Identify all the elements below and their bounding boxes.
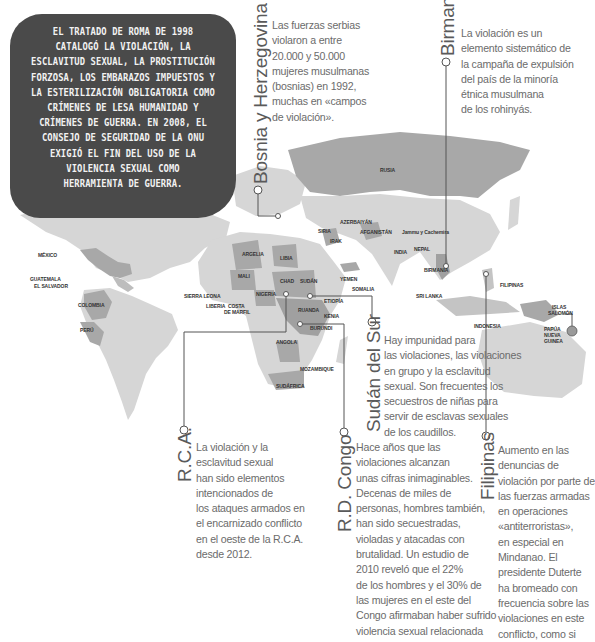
intro-line: exigió el fin del uso de la bbox=[26, 146, 219, 161]
intro-line: la esterilización obligatoria como bbox=[26, 85, 219, 100]
label-angola: ANGOLA bbox=[276, 339, 298, 345]
label-mexico: MÉXICO bbox=[38, 251, 57, 258]
label-burundi: BURUNDI bbox=[310, 325, 333, 331]
bosnia-note: Las fuerzas serbias violaron a entre 20.… bbox=[272, 18, 369, 125]
madagascar bbox=[336, 336, 348, 364]
intro-line: El Tratado de Roma de 1998 bbox=[26, 24, 219, 39]
label-peru: PERÚ bbox=[80, 327, 94, 333]
label-colombia: COLOMBIA bbox=[78, 302, 105, 308]
label-chad: CHAD bbox=[280, 278, 295, 284]
philippines bbox=[482, 268, 494, 292]
russia-region bbox=[288, 132, 530, 198]
intro-line: esclavitud sexual, la prostitución bbox=[26, 54, 219, 69]
label-siria: SIRIA bbox=[318, 228, 331, 234]
filipinas-note: Aumento en las denuncias de violación po… bbox=[498, 443, 595, 642]
japan bbox=[508, 196, 520, 230]
label-nepal: NEPAL bbox=[414, 246, 430, 252]
label-sudafrica: SUDÁFRICA bbox=[276, 383, 305, 389]
label-islas-salomon-2: SALOMÓN bbox=[548, 309, 573, 316]
intro-line: catalogó la violación, la bbox=[26, 39, 219, 54]
rca-note: La violación y la esclavitud sexual han … bbox=[196, 440, 305, 562]
label-libia: LIBIA bbox=[280, 255, 293, 261]
label-sudan: SUDÁN bbox=[300, 278, 318, 284]
label-guatemala: GUATEMALA bbox=[30, 276, 61, 282]
label-etiopia: ETIOPÍA bbox=[324, 297, 344, 304]
label-rusia: RUSIA bbox=[380, 167, 396, 173]
yemen-region bbox=[340, 262, 360, 272]
label-sri-lanka: SRI LANKA bbox=[416, 293, 443, 299]
label-indonesia: INDONESIA bbox=[474, 323, 501, 329]
label-somalia: SOMALIA bbox=[352, 286, 375, 292]
intro-line: crímenes de lesa humanidad y bbox=[26, 100, 219, 115]
filipinas-title: Filipinas bbox=[477, 432, 499, 500]
birmania-title: Birmania bbox=[437, 0, 459, 56]
intro-callout-box: El Tratado de Roma de 1998 catalogó la v… bbox=[10, 14, 236, 218]
intro-line: Consejo de Seguridad de la ONU bbox=[26, 130, 219, 145]
label-liberia: LIBERIA bbox=[206, 303, 226, 309]
rdcongo-title: R.D. Congo bbox=[334, 435, 356, 532]
label-png-3: GUINEA bbox=[544, 338, 563, 344]
solomon-islands-marker bbox=[567, 326, 577, 336]
label-birmania: BIRMANIA bbox=[424, 267, 449, 273]
sudan-sur-title: Sudán del Sur bbox=[363, 314, 385, 432]
label-india: INDIA bbox=[394, 249, 408, 255]
sudan-sur-note: Hay impunidad para las violaciones, las … bbox=[384, 333, 521, 440]
bosnia-title: Bosnia y Herzegovina bbox=[250, 3, 272, 184]
label-kenia: KENIA bbox=[324, 313, 340, 319]
birmania-note: La violación es un elemento sistemático … bbox=[461, 26, 574, 118]
label-sierra-leona: SIERRA LEONA bbox=[184, 293, 221, 299]
label-filipinas: FILIPINAS bbox=[500, 282, 524, 288]
rdcongo-note: Hace años que las violaciones alcanzan u… bbox=[356, 440, 496, 639]
label-irak: IRAK bbox=[330, 238, 342, 244]
label-jammu: Jammu y Cachemira bbox=[402, 229, 449, 235]
intro-line: herramienta de guerra. bbox=[26, 176, 219, 191]
label-yemen: YEMEN bbox=[340, 276, 358, 282]
intro-line: violencia sexual como bbox=[26, 161, 219, 176]
indonesia-region bbox=[436, 296, 520, 316]
rca-title: R.C.A. bbox=[174, 427, 196, 482]
label-costa-marfil-2: DE MARFIL bbox=[224, 309, 250, 315]
label-argelia: ARGELIA bbox=[242, 251, 264, 257]
intro-line: crímenes de guerra. En 2008, el bbox=[26, 115, 219, 130]
label-nigeria: NIGERIA bbox=[256, 291, 277, 297]
label-afganistan: AFGANISTÁN bbox=[360, 229, 392, 235]
label-azerbaiyan: AZERBAIYÁN bbox=[340, 219, 372, 225]
label-el-salvador: EL SALVADOR bbox=[34, 283, 68, 289]
intro-line: forzosa, los embarazos impuestos y bbox=[26, 70, 219, 85]
label-ruanda: RUANDA bbox=[298, 307, 320, 313]
label-mali: MALI bbox=[238, 273, 251, 279]
label-mozambique: MOZAMBIQUE bbox=[300, 366, 334, 372]
